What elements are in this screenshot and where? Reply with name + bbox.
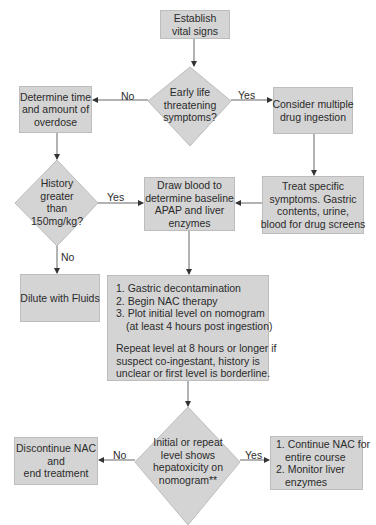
- determine-time-amount-box: Determine time and amount of overdose: [19, 86, 92, 133]
- continue-nac-box: 1. Continue NAC for entire course 2. Mon…: [270, 436, 363, 490]
- box-text: overdose: [20, 116, 91, 129]
- decision-text: 150mg/kg?: [31, 215, 83, 228]
- decision-text: greater: [31, 190, 83, 203]
- decision-text: History: [31, 177, 83, 190]
- note-text: Repeat level at 8 hours or longer if: [116, 342, 260, 355]
- box-text: Draw blood to: [145, 179, 234, 192]
- repeat-level-note: Repeat level at 8 hours or longer if sus…: [116, 342, 260, 380]
- box-text: Consider multiple: [272, 98, 353, 111]
- decision-early-life-threatening: Early life threatening symptoms?: [150, 72, 230, 138]
- decision-text: hepatoxicity on: [153, 461, 223, 474]
- decision-text: Early life: [163, 86, 217, 99]
- step-item-3-cont: (at least 4 hours post ingestion): [116, 320, 260, 333]
- note-text: suspect co-ingestant, history is: [116, 355, 260, 368]
- box-text: and amount of: [20, 103, 91, 116]
- edge-label-history-yes: Yes: [107, 191, 124, 203]
- box-text: Establish: [172, 12, 218, 25]
- edge-label-hepatotox-no: No: [113, 449, 126, 461]
- establish-vital-signs-box: Establish vital signs: [160, 10, 230, 39]
- dilute-with-fluids-box: Dilute with Fluids: [20, 274, 100, 322]
- box-text: entire course: [276, 451, 370, 464]
- decision-text: level shows: [153, 449, 223, 462]
- edge-label-hepatotox-yes: Yes: [245, 449, 262, 461]
- edge-label-early-no: No: [121, 90, 134, 102]
- edge-label-history-no: No: [61, 251, 74, 263]
- decision-history-150mgkg: History greater than 150mg/kg?: [17, 168, 97, 236]
- box-text: determine baseline: [145, 192, 234, 205]
- decision-hepatotoxicity: Initial or repeat level shows hepatoxici…: [140, 428, 236, 494]
- decision-text: threatening: [163, 99, 217, 112]
- consider-multiple-drug-box: Consider multiple drug ingestion: [273, 87, 353, 134]
- treatment-steps-box: 1. Gastric decontamination 2. Begin NAC …: [107, 275, 269, 381]
- decision-text: Initial or repeat: [153, 436, 223, 449]
- note-text: unclear or first level is borderline.: [116, 367, 260, 380]
- decision-text: than: [31, 202, 83, 215]
- box-text: enzymes: [276, 476, 370, 489]
- decision-text: nomogram**: [153, 474, 223, 487]
- box-text: end treatment: [16, 467, 96, 480]
- box-text: Discontinue NAC: [16, 442, 96, 455]
- box-text: Dilute with Fluids: [20, 292, 99, 305]
- box-text: 1. Continue NAC for: [276, 438, 370, 451]
- discontinue-nac-box: Discontinue NAC and end treatment: [14, 437, 98, 485]
- step-item-2: 2. Begin NAC therapy: [116, 295, 260, 308]
- box-text: Determine time: [20, 91, 91, 104]
- box-text: Treat specific: [261, 180, 365, 193]
- draw-blood-baseline-box: Draw blood to determine baseline APAP an…: [144, 177, 235, 231]
- box-text: and: [16, 455, 96, 468]
- box-text: vital signs: [172, 25, 218, 38]
- edge-label-early-yes: Yes: [238, 89, 255, 101]
- box-text: blood for drug screens: [261, 218, 365, 231]
- step-item-3: 3. Plot initial level on nomogram: [116, 307, 260, 320]
- box-text: drug ingestion: [272, 111, 353, 124]
- box-text: 2. Monitor liver: [276, 463, 370, 476]
- step-item-1: 1. Gastric decontamination: [116, 282, 260, 295]
- box-text: symptoms. Gastric: [261, 193, 365, 206]
- box-text: enzymes: [145, 217, 234, 230]
- decision-text: symptoms?: [163, 111, 217, 124]
- box-text: APAP and liver: [145, 204, 234, 217]
- box-text: contents, urine,: [261, 205, 365, 218]
- treat-specific-symptoms-box: Treat specific symptoms. Gastric content…: [262, 176, 364, 234]
